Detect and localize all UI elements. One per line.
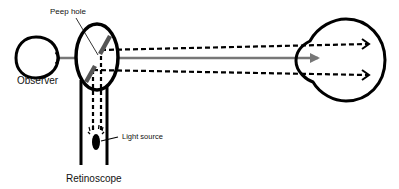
peep-hole-label: Peep hole xyxy=(50,7,87,16)
observer-label: Observer xyxy=(17,75,59,86)
light-source-label: Light source xyxy=(122,132,163,141)
retinoscope-label: Retinoscope xyxy=(66,173,122,184)
retinoscopy-diagram: Peep hole Observer Light source Retinosc… xyxy=(0,0,399,189)
retinoscope-head xyxy=(76,24,118,90)
patient-eye-icon xyxy=(296,19,385,101)
observer-eye-icon xyxy=(16,37,59,78)
reflected-light-rays xyxy=(93,44,368,75)
